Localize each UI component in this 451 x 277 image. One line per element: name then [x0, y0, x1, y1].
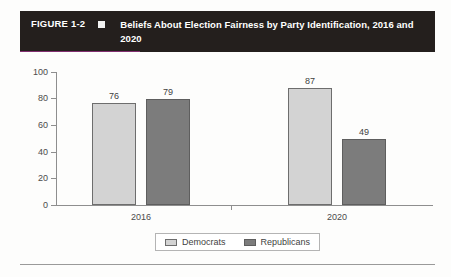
legend-item-democrats: Democrats — [165, 237, 226, 247]
y-axis-line — [56, 72, 57, 206]
y-tick-100 — [51, 72, 56, 73]
y-tick-label-0: 0 — [22, 201, 48, 210]
y-tick-label-20-wrap: 20 — [18, 174, 48, 183]
y-tick-label-80-wrap: 80 — [18, 94, 48, 103]
y-tick-0 — [51, 205, 56, 206]
bar-democrats-2020 — [288, 88, 332, 205]
light-gray-swatch-icon — [165, 239, 177, 246]
y-tick-60 — [51, 125, 56, 126]
x-tick-label-2020: 2020 — [307, 212, 367, 222]
y-tick-80 — [51, 98, 56, 99]
bar-value-republicans-2020: 49 — [342, 127, 386, 137]
bar-value-democrats-2016: 76 — [92, 91, 136, 101]
y-tick-label-60: 60 — [22, 121, 48, 130]
y-tick-label-80: 80 — [22, 94, 48, 103]
bar-republicans-2020 — [342, 139, 386, 205]
legend-item-republicans: Republicans — [244, 237, 311, 247]
y-tick-label-20: 20 — [22, 174, 48, 183]
legend-label-republicans: Republicans — [261, 237, 311, 247]
bar-value-democrats-2020: 87 — [288, 76, 332, 86]
dark-gray-swatch-icon — [244, 239, 256, 246]
bar-value-republicans-2016: 79 — [146, 87, 190, 97]
y-tick-40 — [51, 152, 56, 153]
x-tick-divider — [231, 205, 232, 210]
footer-divider — [20, 264, 435, 265]
y-tick-label-100-wrap: 100 — [18, 68, 48, 77]
y-tick-label-60-wrap: 60 — [18, 121, 48, 130]
x-axis-line — [56, 205, 433, 206]
y-tick-label-0-wrap: 0 — [18, 201, 48, 210]
legend-label-democrats: Democrats — [182, 237, 226, 247]
y-tick-20 — [51, 178, 56, 179]
y-tick-label-40: 40 — [22, 148, 48, 157]
x-tick-label-2016: 2016 — [111, 212, 171, 222]
figure-page: FIGURE 1-2 Beliefs About Election Fairne… — [0, 0, 451, 277]
chart-legend: Democrats Republicans — [155, 233, 320, 251]
bar-republicans-2016 — [146, 99, 190, 205]
y-tick-label-40-wrap: 40 — [18, 148, 48, 157]
bar-democrats-2016 — [92, 103, 136, 205]
y-tick-label-100: 100 — [22, 68, 48, 77]
